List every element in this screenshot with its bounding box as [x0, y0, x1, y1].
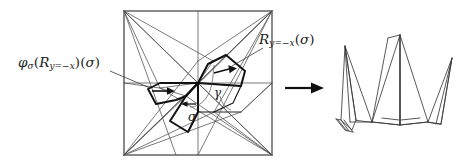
label-sigma-region: σ	[188, 110, 196, 124]
label-gamma-region: γ	[214, 86, 221, 100]
reflection-subscript: y=−x	[49, 61, 74, 71]
reflection-R-glyph: R	[39, 54, 49, 70]
sigma-glyph: σ	[86, 54, 95, 70]
figure-canvas	[0, 0, 466, 168]
folds-into-arrow	[285, 83, 324, 94]
label-reflection-of-sigma: Ry=−x(σ)	[259, 31, 315, 48]
refl-close-paren: )	[309, 31, 314, 47]
sigma-close-paren: )	[95, 54, 100, 70]
sigma-glyph-2: σ	[300, 31, 309, 47]
phi-glyph: φ	[18, 54, 28, 70]
label-phi-sigma-reflection-sigma: φσ(Ry=−x)(σ)	[18, 54, 100, 71]
folded-crane-base	[336, 35, 452, 132]
crease-pattern-square	[124, 11, 272, 155]
reflection-subscript-2: y=−x	[269, 38, 294, 48]
origami-reflection-figure: φσ(Ry=−x)(σ) Ry=−x(σ) σ γ	[0, 0, 466, 168]
reflection-R-glyph-2: R	[259, 31, 269, 47]
